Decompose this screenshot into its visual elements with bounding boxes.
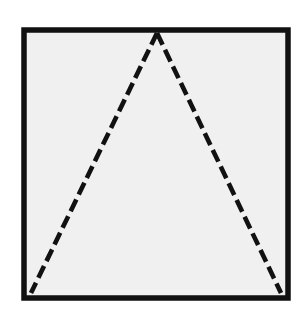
- square-frame: [24, 30, 288, 298]
- geometry-figure: [0, 0, 303, 316]
